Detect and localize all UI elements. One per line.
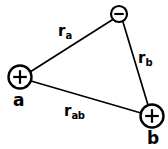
distance-label-rab-subscript: ab: [71, 110, 84, 121]
diagram-canvas: [0, 0, 168, 149]
charge-label-b: b: [147, 130, 159, 147]
distance-label-ra-subscript: a: [65, 30, 71, 41]
charge-node-negative: [111, 6, 127, 22]
edge-line-rab: [31, 81, 141, 113]
distance-label-ra: ra: [58, 24, 72, 39]
distance-label-rab: rab: [64, 104, 85, 119]
distance-label-rb: rb: [138, 51, 152, 66]
charge-triangle-diagram: ra rb rab a b: [0, 0, 168, 149]
charge-label-a: a: [13, 92, 24, 109]
charge-node-b: [141, 105, 164, 128]
charge-node-a: [9, 66, 32, 89]
distance-label-rb-subscript: b: [145, 57, 152, 68]
